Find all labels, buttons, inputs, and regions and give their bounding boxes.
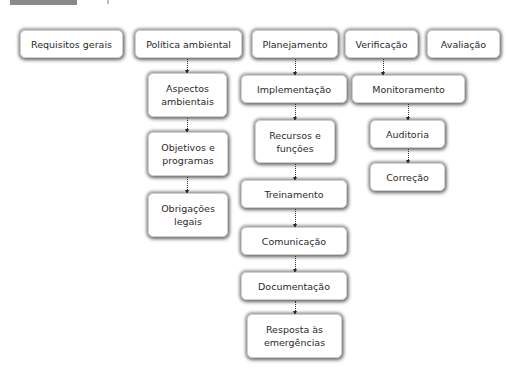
node-label: Obrigações legais [153, 202, 223, 228]
arrow-connector [408, 104, 409, 119]
node-label: Objetivos e programas [153, 141, 223, 167]
node-auditoria: Auditoria [370, 120, 445, 148]
node-monitoramento: Monitoramento [352, 75, 465, 103]
arrow-connector [295, 256, 296, 271]
node-documentacao: Documentação [241, 272, 347, 300]
arrow-connector [295, 104, 296, 119]
node-label: Resposta às emergências [252, 323, 337, 349]
node-label: Planejamento [262, 38, 327, 51]
node-label: Verificação [355, 38, 407, 51]
node-obrigacoes-legais: Obrigações legais [148, 193, 228, 237]
node-label: Monitoramento [372, 83, 445, 96]
node-avaliacao: Avaliação [427, 30, 500, 58]
node-label: Avaliação [441, 38, 486, 51]
node-planejamento: Planejamento [252, 30, 338, 58]
node-objetivos-programas: Objetivos e programas [148, 132, 228, 176]
node-implementacao: Implementação [241, 75, 347, 103]
arrow-connector [295, 301, 296, 313]
node-requisitos-gerais: Requisitos gerais [20, 30, 123, 58]
node-correcao: Correção [370, 163, 445, 191]
node-label: Treinamento [264, 188, 323, 201]
caption-mark [107, 0, 109, 4]
arrow-connector [187, 118, 188, 131]
node-label: Auditoria [386, 128, 429, 141]
node-label: Requisitos gerais [31, 38, 112, 51]
node-label: Aspectos ambientais [153, 82, 222, 108]
node-aspectos-ambientais: Aspectos ambientais [148, 73, 227, 117]
node-label: Correção [386, 171, 429, 184]
node-resposta-emergencias: Resposta às emergências [247, 314, 342, 358]
node-verificacao: Verificação [345, 30, 418, 58]
arrow-connector [295, 164, 296, 179]
node-label: Política ambiental [146, 38, 231, 51]
figure-caption-bar [10, 0, 77, 5]
node-recursos-funcoes: Recursos e funções [255, 120, 335, 163]
arrow-connector [187, 59, 188, 72]
arrow-connector [383, 59, 384, 74]
arrow-connector [408, 149, 409, 162]
arrow-connector [187, 177, 188, 192]
node-label: Implementação [257, 83, 331, 96]
node-comunicacao: Comunicação [241, 227, 347, 255]
node-politica-ambiental: Política ambiental [135, 30, 242, 58]
node-label: Documentação [258, 280, 330, 293]
arrow-connector [295, 209, 296, 226]
node-label: Recursos e funções [260, 129, 330, 155]
node-label: Comunicação [262, 235, 326, 248]
node-treinamento: Treinamento [241, 180, 347, 208]
arrow-connector [295, 59, 296, 74]
